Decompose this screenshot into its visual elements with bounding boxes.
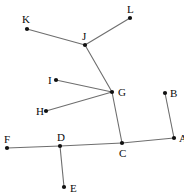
vertex-point-l (128, 16, 132, 20)
vertex-label-c: C (119, 148, 126, 159)
segment-f-d (7, 146, 60, 148)
segment-j-l (85, 18, 130, 45)
diagram-canvas: ABCDEFGHIJKL (0, 0, 184, 195)
vertex-point-d (58, 144, 62, 148)
vertex-point-e (62, 185, 66, 189)
segment-g-c (112, 92, 122, 143)
vertex-label-j: J (82, 31, 86, 42)
vertex-label-g: G (118, 87, 126, 98)
vertex-point-f (5, 146, 9, 150)
segment-c-a (122, 138, 174, 143)
vertex-point-j (83, 43, 87, 47)
vertex-label-a: A (179, 133, 184, 144)
vertex-label-d: D (57, 132, 65, 143)
vertex-label-e: E (70, 183, 77, 194)
diagram-svg (0, 0, 184, 195)
vertex-point-b (163, 91, 167, 95)
segment-d-c (60, 143, 122, 146)
segment-i-g (56, 80, 112, 92)
vertex-label-h: H (36, 106, 44, 117)
vertex-point-a (172, 136, 176, 140)
segment-k-j (27, 29, 85, 45)
vertex-point-k (25, 27, 29, 31)
segment-b-a (165, 93, 174, 138)
vertex-label-k: K (22, 14, 30, 25)
vertex-point-g (110, 90, 114, 94)
vertex-point-i (54, 78, 58, 82)
edges-layer (7, 18, 174, 187)
segment-h-g (46, 92, 112, 111)
vertex-label-i: I (48, 75, 52, 86)
segment-j-g (85, 45, 112, 92)
vertex-point-h (44, 109, 48, 113)
vertex-label-l: L (127, 4, 134, 15)
segment-d-e (60, 146, 64, 187)
vertex-label-f: F (4, 134, 10, 145)
vertex-label-b: B (170, 88, 177, 99)
vertex-point-c (120, 141, 124, 145)
